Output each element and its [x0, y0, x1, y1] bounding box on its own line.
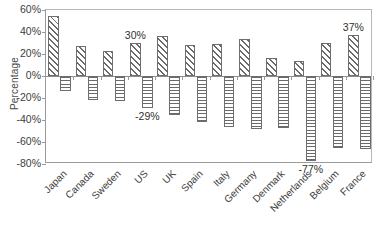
bar-positive	[48, 16, 59, 77]
bar-negative	[88, 76, 99, 100]
x-axis-tick-mark	[237, 76, 238, 80]
x-axis-tick-mark	[291, 76, 292, 80]
x-axis-tick-mark	[155, 76, 156, 80]
bar-positive	[130, 43, 141, 76]
x-axis-tick-mark	[101, 76, 102, 80]
bar-negative	[360, 76, 371, 149]
bar-negative	[169, 76, 180, 115]
x-axis-tick-mark	[264, 76, 265, 80]
x-axis-tick-mark	[128, 76, 129, 80]
bar-negative	[142, 76, 153, 108]
y-axis-tick-mark	[42, 32, 46, 33]
y-axis-tick-mark	[42, 142, 46, 143]
y-axis-tick-label: 60%	[1, 4, 41, 14]
x-axis-tick-mark	[182, 76, 183, 80]
x-axis-tick-mark	[210, 76, 211, 80]
bar-negative	[115, 76, 126, 101]
bar-positive	[239, 39, 250, 76]
y-axis-tick-mark	[42, 120, 46, 121]
bar-negative	[224, 76, 235, 127]
y-axis-tick-mark	[42, 10, 46, 11]
x-axis-tick-mark	[319, 76, 320, 80]
bar-positive	[185, 45, 196, 76]
bar-negative	[333, 76, 344, 148]
data-label: -29%	[127, 110, 167, 122]
x-axis-tick-mark	[373, 76, 374, 80]
y-axis-tick-mark	[42, 54, 46, 55]
y-axis-tick-mark	[42, 76, 46, 77]
bar-negative	[306, 76, 317, 161]
bar-chart: Percentage 60%40%20%0%-20%-40%-60%-80% 3…	[0, 0, 381, 232]
bar-positive	[321, 43, 332, 76]
bar-negative	[251, 76, 262, 129]
y-axis-tick-label: -20%	[1, 92, 41, 102]
y-axis-tick-label: 0%	[1, 70, 41, 80]
bar-positive	[103, 51, 114, 76]
x-axis-tick-mark	[73, 76, 74, 80]
y-axis-tick-label: -40%	[1, 114, 41, 124]
bar-negative	[197, 76, 208, 122]
data-label: 37%	[333, 21, 373, 33]
bar-positive	[157, 36, 168, 76]
y-axis-tick-mark	[42, 98, 46, 99]
x-axis-category-labels: JapanCanadaSwedenUSUKSpainItalyGermanyDe…	[45, 164, 372, 232]
bar-positive	[348, 35, 359, 76]
bar-positive	[76, 46, 87, 76]
y-axis-tick-label: -60%	[1, 136, 41, 146]
y-axis-tick-label: -80%	[1, 158, 41, 168]
data-label: 30%	[115, 29, 155, 41]
bar-positive	[294, 61, 305, 76]
x-axis-tick-mark	[346, 76, 347, 80]
y-axis-tick-label: 20%	[1, 48, 41, 58]
plot-area: 30%-29%-77%37%	[45, 9, 372, 163]
bar-positive	[212, 44, 223, 76]
bar-negative	[278, 76, 289, 128]
y-axis-tick-label: 40%	[1, 26, 41, 36]
bar-positive	[266, 58, 277, 76]
bar-negative	[60, 76, 71, 91]
